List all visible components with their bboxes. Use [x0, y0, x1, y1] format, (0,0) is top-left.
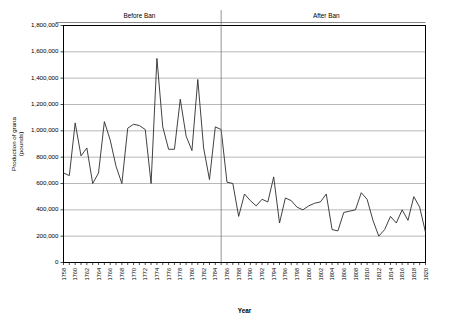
- grana-production-line-chart: 0200,000400,000600,000800,0001,000,0001,…: [0, 0, 462, 319]
- x-tick-label: 1760: [72, 268, 78, 280]
- y-tick-label: 1,000,000: [31, 126, 59, 133]
- x-tick-label: 1768: [119, 268, 125, 280]
- y-tick-label: 600,000: [36, 179, 59, 186]
- x-tick-label: 1814: [388, 268, 394, 280]
- x-tick-label: 1818: [411, 268, 417, 280]
- x-tick-label: 1776: [166, 268, 172, 280]
- x-tick-label: 1816: [399, 268, 405, 280]
- y-axis-title-line1: Production of grana: [10, 116, 17, 171]
- gridlines: [64, 26, 426, 237]
- before-ban-label: Before Ban: [123, 12, 155, 19]
- x-tick-label: 1804: [329, 268, 335, 280]
- y-tick-label: 1,400,000: [31, 74, 59, 81]
- x-tick-label: 1782: [201, 268, 207, 280]
- x-tick-label: 1772: [142, 268, 148, 280]
- x-tick-label: 1808: [353, 268, 359, 280]
- ban-annotations: Before BanAfter Ban: [56, 10, 426, 263]
- y-axis-title-line2: (pounds): [17, 132, 24, 156]
- x-tick-label: 1788: [236, 268, 242, 280]
- x-tick-label: 1774: [154, 268, 160, 280]
- x-tick-label: 1800: [306, 268, 312, 280]
- y-tick-label: 400,000: [36, 205, 59, 212]
- x-tick-label: 1820: [423, 268, 429, 280]
- plot-frame: [64, 26, 426, 263]
- x-axis-title: Year: [238, 307, 252, 314]
- x-tick-label: 1810: [364, 268, 370, 280]
- y-tick-label: 1,800,000: [31, 21, 59, 28]
- x-tick-label: 1794: [271, 268, 277, 280]
- x-tick-label: 1790: [247, 268, 253, 280]
- y-tick-label: 0: [55, 258, 59, 265]
- plot-border: [64, 26, 426, 263]
- after-ban-label: After Ban: [313, 12, 340, 19]
- x-tick-label: 1778: [177, 268, 183, 280]
- x-tick-label: 1802: [318, 268, 324, 280]
- y-axis-title: Production of grana(pounds): [10, 116, 24, 171]
- x-tick-label: 1786: [224, 268, 230, 280]
- x-tick-label: 1762: [84, 268, 90, 280]
- x-tick-label: 1780: [189, 268, 195, 280]
- x-axis-tick-labels: 1758176017621764176617681770177217741776…: [61, 268, 429, 280]
- y-tick-label: 800,000: [36, 153, 59, 160]
- x-tick-label: 1812: [376, 268, 382, 280]
- y-axis-tick-labels: 0200,000400,000600,000800,0001,000,0001,…: [31, 21, 59, 265]
- x-tick-label: 1764: [96, 268, 102, 280]
- x-tick-label: 1796: [282, 268, 288, 280]
- x-tick-label: 1766: [107, 268, 113, 280]
- x-tick-label: 1792: [259, 268, 265, 280]
- y-tick-label: 200,000: [36, 232, 59, 239]
- x-tick-label: 1758: [61, 268, 67, 280]
- x-tick-label: 1770: [131, 268, 137, 280]
- x-tick-label: 1798: [294, 268, 300, 280]
- x-tick-label: 1784: [212, 268, 218, 280]
- chart-container: 0200,000400,000600,000800,0001,000,0001,…: [0, 0, 462, 319]
- y-tick-label: 1,600,000: [31, 47, 59, 54]
- x-tick-label: 1806: [341, 268, 347, 280]
- y-tick-label: 1,200,000: [31, 100, 59, 107]
